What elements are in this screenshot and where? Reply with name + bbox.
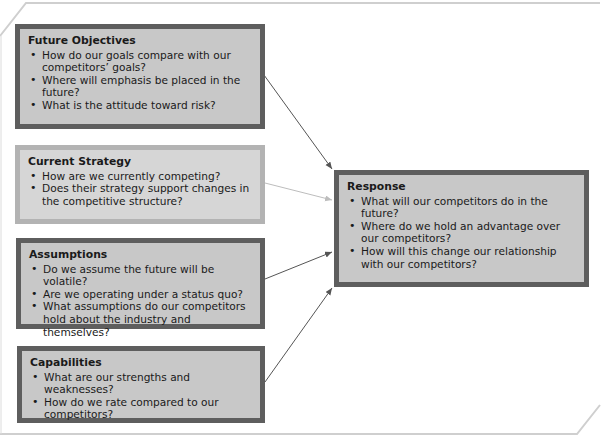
box-current-strategy: Current Strategy How are we currently co…: [15, 145, 265, 224]
arrow-future-objectives-to-response: [264, 75, 332, 169]
question-item: Where do we hold an advantage over our c…: [347, 220, 576, 245]
question-item: Are we operating under a status quo?: [29, 288, 252, 301]
question-item: What is the attitude toward risk?: [28, 99, 252, 112]
question-item: Does their strategy support changes in t…: [28, 182, 252, 207]
arrow-assumptions-to-response: [265, 252, 332, 279]
question-item: How are we currently competing?: [28, 170, 252, 183]
box-capabilities: Capabilities What are our strengths and …: [17, 346, 265, 423]
box-future-objectives: Future Objectives How do our goals compa…: [15, 24, 265, 129]
question-item: How will this change our relationship wi…: [347, 245, 576, 270]
question-list: What will our competitors do in the futu…: [347, 195, 576, 271]
question-list: Do we assume the future will be volatile…: [29, 263, 252, 339]
question-item: Where will emphasis be placed in the fut…: [28, 74, 252, 99]
question-list: How do our goals compare with our compet…: [28, 49, 252, 112]
box-title: Response: [347, 181, 576, 194]
box-title: Current Strategy: [28, 156, 252, 169]
question-item: What assumptions do our competitors hold…: [29, 300, 252, 338]
box-assumptions: Assumptions Do we assume the future will…: [16, 238, 265, 329]
question-list: What are our strengths and weaknesses? H…: [30, 371, 252, 421]
question-item: Do we assume the future will be volatile…: [29, 263, 252, 288]
question-list: How are we currently competing? Does the…: [28, 170, 252, 208]
box-title: Future Objectives: [28, 35, 252, 48]
box-title: Assumptions: [29, 249, 252, 262]
question-item: How do we rate compared to our competito…: [30, 396, 252, 421]
box-title: Capabilities: [30, 357, 252, 370]
arrow-current-strategy-to-response: [265, 183, 332, 200]
question-item: What will our competitors do in the futu…: [347, 195, 576, 220]
question-item: How do our goals compare with our compet…: [28, 49, 252, 74]
box-response: Response What will our competitors do in…: [334, 170, 589, 287]
question-item: What are our strengths and weaknesses?: [30, 371, 252, 396]
arrow-capabilities-to-response: [265, 288, 332, 382]
